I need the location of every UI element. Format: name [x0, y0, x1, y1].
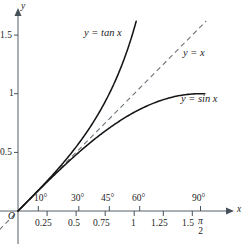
degree-label-10: 10° — [34, 194, 47, 204]
degree-label-60: 60° — [132, 194, 145, 204]
x-tick-label-0.25: 0.25 — [35, 219, 52, 229]
y-tick-label-0.5: 0.5 — [0, 148, 12, 158]
y-tick-label-1: 1 — [9, 89, 14, 99]
sine-curve-label: y = sin x — [181, 94, 218, 105]
tangent-curve-label: y = tan x — [84, 28, 122, 39]
x-tick-label-0.5: 0.5 — [68, 219, 80, 229]
origin-label: O — [8, 212, 15, 222]
pi-over-two-label: π 2 — [193, 217, 208, 236]
y-tick-marks — [14, 35, 18, 152]
graph-canvas — [0, 0, 251, 244]
tangent-curve — [18, 21, 136, 211]
two-denominator: 2 — [193, 227, 208, 237]
identity-line-label: y = x — [183, 48, 205, 59]
x-tick-marks — [47, 211, 192, 216]
x-axis-label: x — [237, 205, 241, 215]
degree-tick-marks — [38, 206, 200, 211]
degree-label-45: 45° — [101, 194, 114, 204]
x-axis-arrow-icon — [226, 208, 234, 215]
degree-label-30: 30° — [71, 194, 84, 204]
x-tick-label-1.25: 1.25 — [151, 219, 168, 229]
y-axis-label: y — [21, 2, 25, 12]
x-tick-label-0.75: 0.75 — [93, 219, 110, 229]
degree-label-90: 90° — [192, 194, 205, 204]
y-tick-label-1.5: 1.5 — [0, 31, 12, 41]
trig-comparison-figure: y x O 1.5 1 0.5 0.25 0.5 0.75 1 1.25 1.5… — [0, 0, 251, 244]
axes-group — [0, 8, 234, 244]
x-tick-label-1: 1 — [131, 219, 136, 229]
